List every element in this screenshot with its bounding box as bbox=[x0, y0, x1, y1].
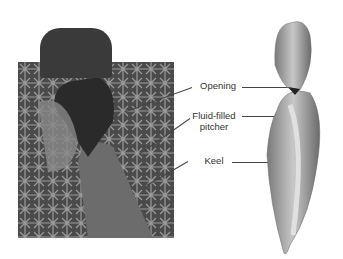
pitcher-plant-photo bbox=[18, 62, 174, 238]
photo-hood bbox=[40, 28, 112, 78]
fluid-filled-pitcher-label: Fluid-filled pitcher bbox=[186, 110, 242, 132]
opening-label: Opening bbox=[193, 80, 243, 91]
pitcher-plant-illustration bbox=[255, 15, 335, 255]
keel-label: Keel bbox=[200, 155, 228, 166]
